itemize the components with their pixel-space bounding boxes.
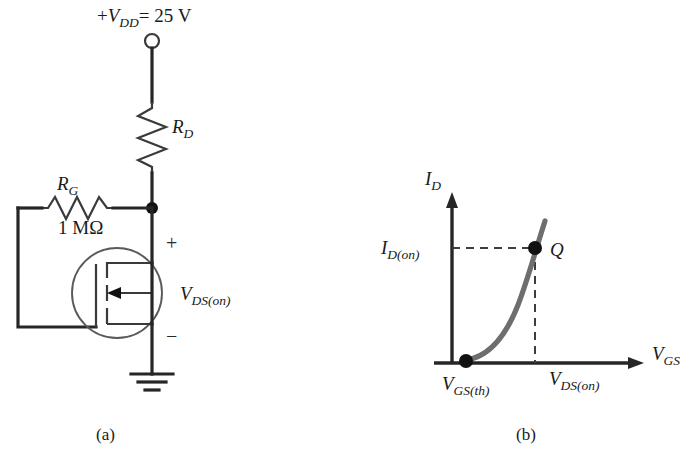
gate-resistor-icon [42,197,113,219]
supply-plus-sign: + [97,5,108,26]
gate-resistor-symbol: R [56,173,69,194]
gate-resistor-value: 1 MΩ [58,217,103,238]
substrate-arrow-icon [107,287,121,299]
x-tick-operating-subscript: DS(on) [560,378,600,393]
y-axis-subscript: D [430,178,441,193]
transfer-characteristic-graph: ID VGS Q [380,168,680,444]
caption-a: (a) [96,425,115,444]
caption-b: (b) [516,425,536,444]
drain-resistor-subscript: D [183,126,194,141]
mosfet-voltage-label: VDS(on) [180,283,231,308]
supply-subscript: DD [118,15,139,30]
q-point-label: Q [550,239,564,260]
threshold-point-dot [459,354,473,368]
supply-value: = 25 V [139,5,192,26]
y-axis-arrow-icon [446,192,458,208]
figure-container: +VDD= 25 V RD RG 1 MΩ [0,0,696,464]
drain-resistor-symbol: R [171,116,184,137]
drain-resistor-icon [138,102,166,173]
x-tick-threshold-label: VGS(th) [442,373,490,398]
y-tick-subscript: D(on) [386,247,420,262]
polarity-plus-label: + [166,232,177,254]
drain-resistor-label: RD [171,116,194,141]
x-tick-threshold-subscript: GS(th) [454,383,490,398]
q-point-dot [528,241,542,255]
gate-resistor-label: RG [56,173,79,198]
x-axis-arrow-icon [628,357,644,369]
figure-svg: +VDD= 25 V RD RG 1 MΩ [0,0,696,464]
x-axis-title: VGS [652,343,680,368]
ground-icon [131,374,173,390]
x-axis-subscript: GS [664,353,681,368]
circuit-diagram: +VDD= 25 V RD RG 1 MΩ [18,5,231,444]
x-tick-operating-label: VDS(on) [549,368,600,393]
mosfet-voltage-subscript: DS(on) [191,293,231,308]
y-tick-label: ID(on) [380,237,420,262]
supply-label: +VDD= 25 V [97,5,192,30]
y-axis-title: ID [424,168,441,193]
polarity-minus-label: − [166,325,177,347]
supply-terminal-icon [145,34,159,48]
